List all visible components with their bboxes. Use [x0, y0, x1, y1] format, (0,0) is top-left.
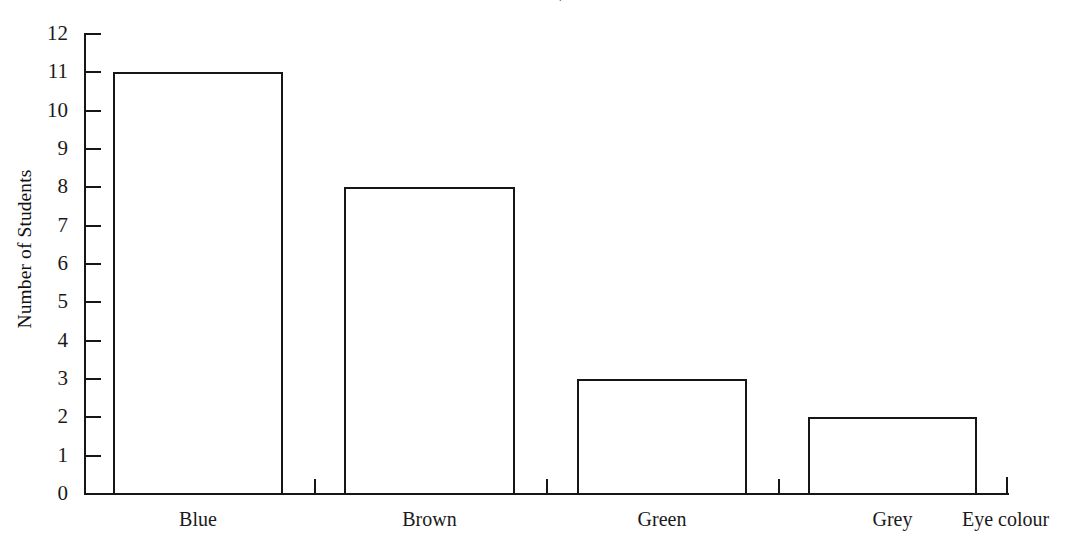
y-axis-tick-label: 12: [22, 23, 68, 44]
y-axis-tick-label: 4: [22, 330, 68, 351]
y-axis-tick: [86, 455, 101, 457]
category-label-blue: Blue: [113, 508, 283, 530]
y-axis-tick: [86, 33, 101, 35]
bar-green: [577, 379, 747, 495]
y-axis-tick-label: 10: [22, 100, 68, 121]
x-axis-gap-tick: [546, 479, 548, 494]
y-axis-tick: [86, 71, 101, 73]
category-label-grey: Grey: [808, 508, 977, 530]
x-axis-label: Eye colour: [962, 508, 1049, 530]
y-axis-tick: [86, 148, 101, 150]
category-label-green: Green: [577, 508, 747, 530]
y-axis-tick-label: 7: [22, 215, 68, 236]
y-axis-tick: [86, 378, 101, 380]
category-label-brown: Brown: [344, 508, 515, 530]
y-axis-tick-label: 8: [22, 176, 68, 197]
y-axis-tick: [86, 340, 101, 342]
y-axis-tick-label: 2: [22, 406, 68, 427]
x-axis-gap-tick: [778, 479, 780, 494]
y-axis-tick-label: 5: [22, 291, 68, 312]
y-axis-tick-label: 0: [22, 483, 68, 504]
bar-brown: [344, 187, 515, 495]
y-axis-tick-label: 3: [22, 368, 68, 389]
y-axis-tick: [86, 186, 101, 188]
bar-grey: [808, 417, 977, 495]
x-axis-gap-tick: [314, 479, 316, 494]
y-axis-tick: [86, 225, 101, 227]
bar-blue: [113, 72, 283, 495]
y-axis-tick-label: 1: [22, 445, 68, 466]
y-axis-tick: [86, 416, 101, 418]
y-axis-tick: [86, 110, 101, 112]
y-axis-tick: [86, 263, 101, 265]
y-axis-tick-label: 9: [22, 138, 68, 159]
y-axis-tick-label: 6: [22, 253, 68, 274]
y-axis-tick: [86, 301, 101, 303]
bar-chart: y Number of Students 1211109876543210 Bl…: [0, 0, 1077, 552]
chart-title-remnant: y: [556, 0, 566, 1]
x-axis-end-tick: [1006, 477, 1008, 494]
y-axis-tick-label: 11: [22, 61, 68, 82]
